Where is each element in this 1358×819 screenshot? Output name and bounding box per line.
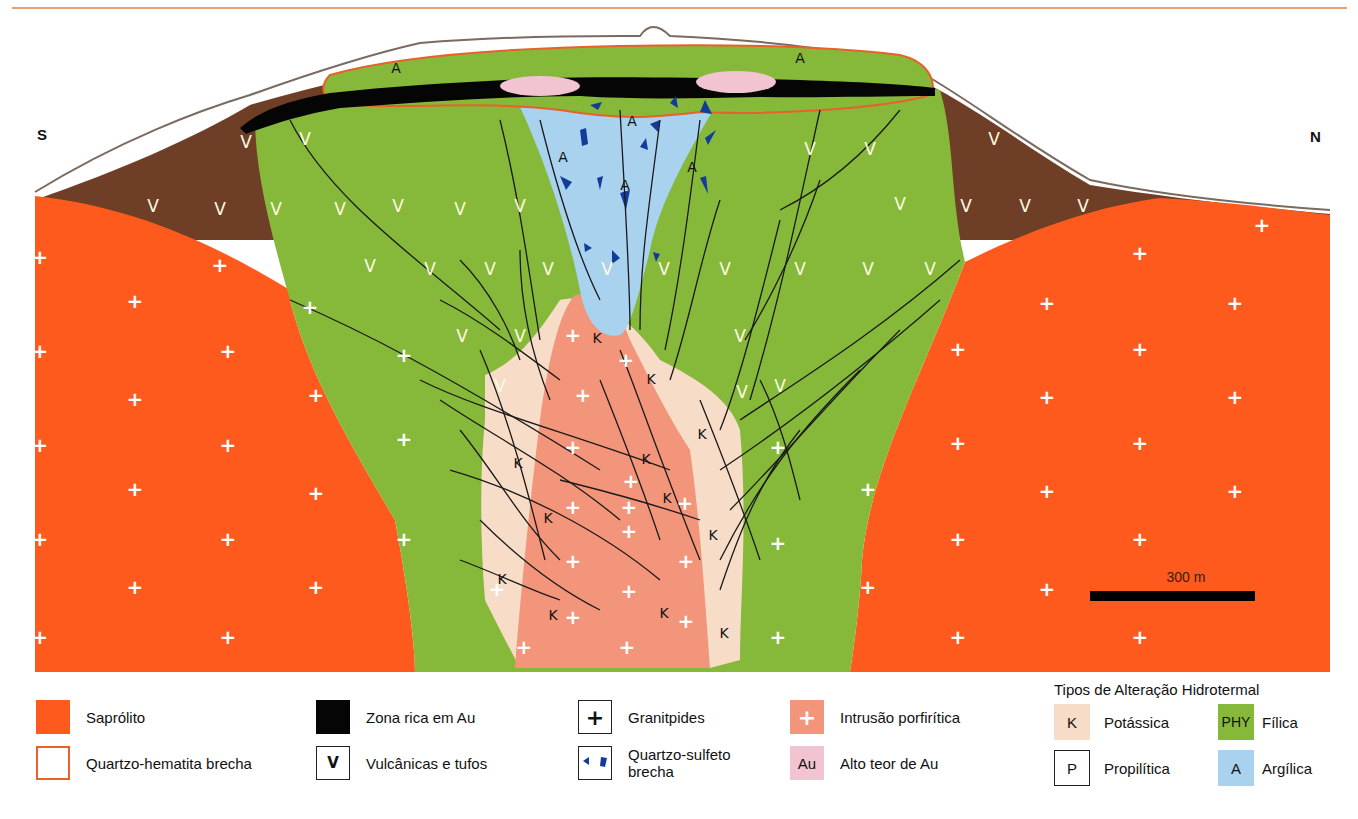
svg-text:+: + [302,295,319,319]
plus-icon: + [790,700,824,734]
svg-text:A: A [627,113,637,129]
svg-text:+: + [860,575,877,599]
svg-text:+: + [212,253,229,277]
svg-text:V: V [794,259,806,279]
svg-text:+: + [565,605,582,629]
legend-label: Granitpides [628,709,705,726]
svg-text:V: V [147,196,159,216]
compass-south: S [37,126,47,143]
svg-text:K: K [543,510,553,526]
svg-text:V: V [484,259,496,279]
high-grade-au-lens [696,71,776,93]
svg-text:+: + [950,527,967,551]
svg-text:V: V [299,129,311,149]
svg-text:+: + [1132,527,1149,551]
svg-text:+: + [32,245,49,269]
svg-text:+: + [565,549,582,573]
high-grade-au-lens [500,76,580,96]
svg-text:A: A [391,60,401,76]
svg-text:+: + [127,289,144,313]
legend-item-argillic: A Argílica [1218,750,1312,786]
svg-text:+: + [308,383,325,407]
legend-item-saprolite: Saprólito [36,700,145,734]
svg-text:+: + [950,431,967,455]
svg-text:K: K [662,490,672,506]
svg-text:+: + [621,579,638,603]
svg-text:V: V [988,129,1000,149]
legend-label: Fílica [1262,714,1298,731]
svg-text:K: K [513,455,523,471]
svg-text:+: + [127,387,144,411]
svg-text:V: V [601,259,613,279]
svg-text:+: + [1254,213,1271,237]
svg-text:V: V [454,199,466,219]
svg-text:+: + [1132,241,1149,265]
legend-item-volcanics: V Vulcânicas e tufos [316,746,487,780]
svg-text:V: V [774,376,786,396]
legend-label: Vulcânicas e tufos [366,755,487,772]
svg-text:+: + [1132,431,1149,455]
svg-text:V: V [864,139,876,159]
qz-hematite-swatch [36,746,70,780]
svg-text:+: + [621,495,638,519]
au-rich-swatch [316,700,350,734]
legend-label: Argílica [1262,760,1312,777]
plus-icon: + [578,700,612,734]
svg-text:+: + [220,433,237,457]
svg-text:+: + [678,549,695,573]
volcanic-v-icon: V [316,746,350,780]
svg-text:V: V [894,194,906,214]
legend-label: Alto teor de Au [840,755,938,772]
svg-text:+: + [1039,577,1056,601]
svg-text:V: V [392,196,404,216]
svg-text:V: V [719,259,731,279]
propylitic-p-symbol: P [1054,750,1090,786]
svg-text:V: V [514,196,526,216]
svg-text:K: K [659,605,669,621]
svg-text:V: V [214,199,226,219]
svg-text:+: + [1039,291,1056,315]
svg-text:+: + [770,435,787,459]
svg-text:K: K [719,625,729,641]
svg-text:+: + [220,625,237,649]
svg-text:V: V [1077,196,1089,216]
svg-text:+: + [396,527,413,551]
au-symbol: Au [790,746,824,780]
svg-text:+: + [1039,479,1056,503]
svg-text:V: V [960,196,972,216]
legend-item-porphyry: + Intrusão porfirítica [790,700,960,734]
svg-text:+: + [678,609,695,633]
svg-text:+: + [308,575,325,599]
svg-text:+: + [623,469,640,493]
legend-label: Quartzo-hematita brecha [86,755,252,772]
svg-text:+: + [220,527,237,551]
scale-bar-label: 300 m [1167,569,1206,585]
svg-text:+: + [565,435,582,459]
breccia-fragments-icon [578,746,612,780]
saprolite-swatch [36,700,70,734]
svg-text:V: V [804,139,816,159]
svg-text:A: A [620,177,630,193]
argillic-a-symbol: A [1218,750,1254,786]
legend-item-high-grade-au: Au Alto teor de Au [790,746,938,780]
legend-label: Quartzo-sulfetobrecha [628,746,731,780]
svg-text:V: V [924,259,936,279]
svg-text:+: + [1132,337,1149,361]
svg-text:A: A [795,50,805,66]
svg-text:V: V [270,199,282,219]
svg-text:+: + [565,323,582,347]
svg-text:K: K [592,330,602,346]
svg-text:+: + [677,491,694,515]
legend-label: Propilítica [1104,760,1170,777]
legend-item-granitoids: + Granitpides [578,700,705,734]
svg-text:+: + [32,433,49,457]
legend-item-phyllic: PHY Fílica [1218,704,1298,740]
svg-text:K: K [697,426,707,442]
svg-text:V: V [862,259,874,279]
legend-item-potassic: K Potássica [1054,704,1169,740]
legend-label: Zona rica em Au [366,709,475,726]
svg-text:+: + [1227,385,1244,409]
svg-text:+: + [1039,385,1056,409]
svg-text:A: A [558,149,568,165]
svg-text:K: K [641,451,651,467]
